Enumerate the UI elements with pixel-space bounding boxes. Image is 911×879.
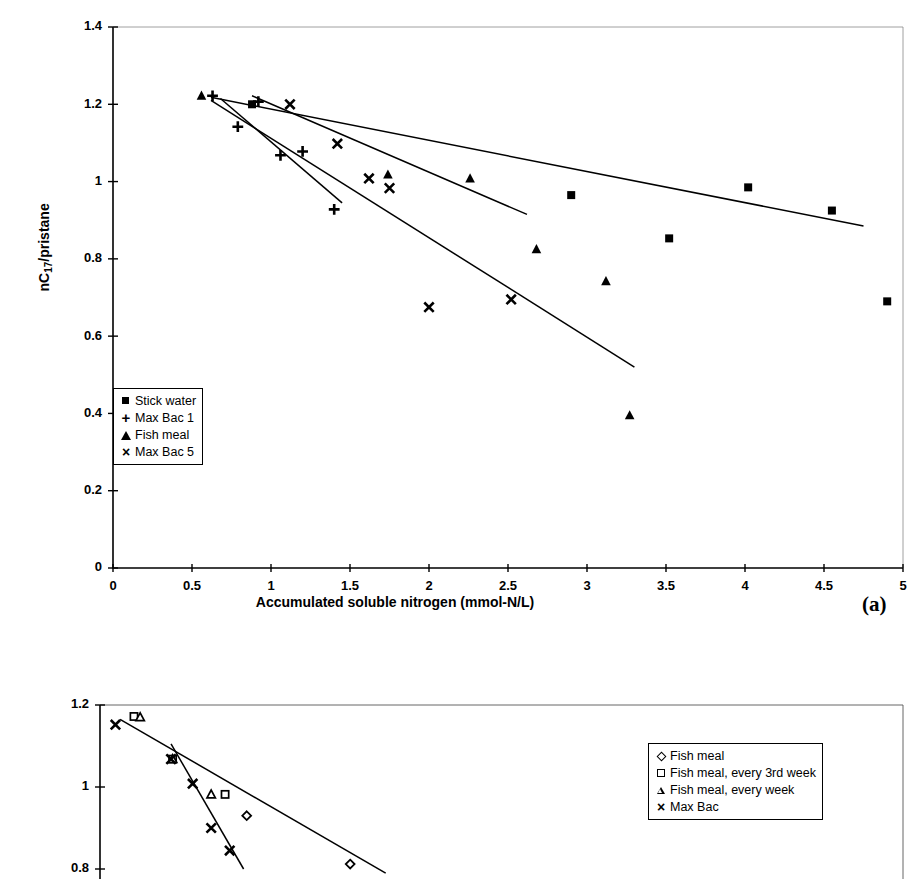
panel-b-data <box>111 713 386 873</box>
data-point-open-diamond <box>346 860 355 869</box>
y-tick-label: 0.6 <box>84 328 102 343</box>
data-point-filled-square <box>744 183 752 191</box>
y-tick-label: 0.8 <box>71 860 89 875</box>
data-point-filled-square <box>567 191 575 199</box>
y-axis-title-subscript: 17 <box>43 262 54 273</box>
data-point-times <box>364 174 373 183</box>
data-point-filled-square <box>828 207 836 215</box>
panel-a-plot: 00.20.40.60.811.21.400.511.522.533.544.5… <box>0 0 911 640</box>
times-icon <box>654 800 668 814</box>
y-tick-label: 0 <box>95 559 102 574</box>
plus-icon <box>119 410 133 425</box>
y-tick-label: 0.4 <box>84 405 103 420</box>
data-point-plus <box>329 204 340 215</box>
y-tick-label: 1.2 <box>84 96 102 111</box>
x-tick-label: 0.5 <box>183 578 201 593</box>
x-tick-label: 4.5 <box>815 578 833 593</box>
legend-item: Fish meal, every week <box>654 781 816 798</box>
legend-item: Fish meal <box>654 747 816 764</box>
data-point-plus <box>207 90 218 101</box>
legend-panel-b: Fish meal Fish meal, every 3rd week Fish… <box>648 743 823 820</box>
y-tick-label: 1 <box>95 173 102 188</box>
x-tick-label: 3.5 <box>657 578 675 593</box>
data-point-times <box>285 100 294 109</box>
data-point-plus <box>232 121 243 132</box>
legend-item-label: Fish meal, every 3rd week <box>668 766 816 780</box>
y-axis-title-a: nC17/pristane <box>36 157 55 337</box>
x-tick-label: 1.5 <box>341 578 359 593</box>
y-tick-label: 1.2 <box>71 696 89 711</box>
legend-item-label: Fish meal, every week <box>668 783 794 797</box>
data-point-filled-square <box>883 297 891 305</box>
y-axis-title-prefix: nC <box>36 273 52 292</box>
data-point-filled-triangle <box>383 169 393 178</box>
data-point-times <box>424 302 433 311</box>
trendline <box>171 744 244 869</box>
data-point-times <box>333 139 342 148</box>
x-tick-label: 3 <box>583 578 590 593</box>
legend-panel-a: Stick water Max Bac 1 Fish meal Max Bac … <box>113 388 203 465</box>
data-point-filled-triangle <box>625 410 635 419</box>
legend-item-label: Max Bac 5 <box>133 445 194 459</box>
trendline <box>120 719 386 873</box>
figure-root: 00.20.40.60.811.21.400.511.522.533.544.5… <box>0 0 911 879</box>
legend-item: Fish meal, every 3rd week <box>654 764 816 781</box>
data-point-plus <box>275 150 286 161</box>
data-point-open-triangle <box>207 790 215 798</box>
y-tick-label: 0.2 <box>84 482 102 497</box>
trendline-filled-triangle <box>211 100 634 367</box>
legend-item: Fish meal <box>119 426 196 443</box>
data-point-times <box>385 183 394 192</box>
x-tick-label: 5 <box>899 578 906 593</box>
x-tick-label: 2 <box>425 578 432 593</box>
legend-item-label: Max Bac <box>668 800 719 814</box>
data-point-filled-triangle <box>197 91 207 100</box>
legend-item: Max Bac 5 <box>119 443 196 460</box>
x-tick-label: 2.5 <box>499 578 517 593</box>
chart-panel-b: 0.811.2 Fish meal Fish meal, every 3rd w… <box>0 640 911 879</box>
legend-item: Stick water <box>119 392 196 409</box>
data-point-filled-triangle <box>465 173 475 182</box>
y-tick-label: 1 <box>82 778 89 793</box>
legend-item-label: Stick water <box>133 394 196 408</box>
legend-item: Max Bac 1 <box>119 409 196 426</box>
x-tick-label: 1 <box>267 578 274 593</box>
data-point-times <box>111 720 120 729</box>
x-axis-title-a: Accumulated soluble nitrogen (mmol-N/L) <box>0 594 790 610</box>
y-axis-title-suffix: /pristane <box>36 203 52 261</box>
x-tick-label: 4 <box>741 578 749 593</box>
data-point-times <box>506 295 515 304</box>
legend-item-label: Max Bac 1 <box>133 411 194 425</box>
trendline-times <box>252 96 527 215</box>
legend-item-label: Fish meal <box>668 749 724 763</box>
data-point-filled-triangle <box>601 276 611 285</box>
panel-label-a: (a) <box>862 592 887 617</box>
times-icon <box>119 445 133 459</box>
x-tick-label: 0 <box>109 578 116 593</box>
chart-panel-a: 00.20.40.60.811.21.400.511.522.533.544.5… <box>0 0 911 640</box>
y-tick-label: 0.8 <box>84 250 102 265</box>
legend-item-label: Fish meal <box>133 428 189 442</box>
data-point-filled-triangle <box>532 244 542 253</box>
data-point-times <box>206 823 215 832</box>
y-tick-label: 1.4 <box>84 18 103 33</box>
data-point-filled-square <box>665 234 673 242</box>
legend-item: Max Bac <box>654 798 816 815</box>
data-point-open-square <box>221 791 228 798</box>
data-point-open-diamond <box>242 811 251 820</box>
